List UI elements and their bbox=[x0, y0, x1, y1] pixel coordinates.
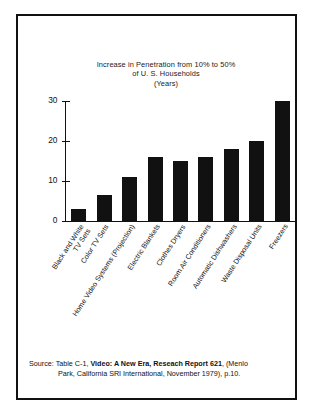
bar[interactable] bbox=[97, 195, 112, 221]
bar-slot bbox=[117, 101, 142, 221]
bar[interactable] bbox=[249, 141, 264, 221]
source-prefix: Source: Table C-1, bbox=[29, 359, 90, 368]
bar-slot bbox=[193, 101, 218, 221]
y-tick-label-30: 30 bbox=[48, 96, 57, 105]
bar-slot bbox=[142, 101, 167, 221]
category-label-line-1: Freezers bbox=[266, 222, 289, 251]
bar-series bbox=[66, 101, 295, 221]
bar[interactable] bbox=[198, 157, 213, 221]
bar-slot bbox=[66, 101, 91, 221]
y-tick-label-10: 10 bbox=[48, 176, 57, 185]
plot-area: 0 10 20 30 bbox=[65, 101, 295, 221]
source-note: Source: Table C-1, Video: A New Era, Res… bbox=[29, 359, 291, 378]
bar-slot bbox=[91, 101, 116, 221]
bar[interactable] bbox=[71, 209, 86, 221]
bar-slot bbox=[244, 101, 269, 221]
y-tick-0: 0 bbox=[62, 221, 70, 222]
bar[interactable] bbox=[148, 157, 163, 221]
bar[interactable] bbox=[275, 101, 290, 221]
y-tick-label-0: 0 bbox=[53, 216, 58, 225]
y-tick-label-20: 20 bbox=[48, 136, 57, 145]
category-label: Freezers bbox=[267, 223, 289, 251]
chart-frame: Increase in Penetration from 10% to 50% … bbox=[16, 14, 297, 400]
bar[interactable] bbox=[224, 149, 239, 221]
category-axis-labels: Black and WhiteTV SetsColor TV SetsHome … bbox=[65, 223, 305, 343]
bar-slot bbox=[270, 101, 295, 221]
bar-slot bbox=[168, 101, 193, 221]
source-line-2: Park, California SRI International, Nove… bbox=[29, 369, 291, 379]
bar-slot bbox=[219, 101, 244, 221]
chart-title: Increase in Penetration from 10% to 50% … bbox=[56, 60, 276, 88]
source-title: Video: A New Era, Reseach Report 621 bbox=[90, 359, 222, 368]
chart-title-line-3: (Years) bbox=[56, 79, 276, 88]
bar[interactable] bbox=[122, 177, 137, 221]
bar[interactable] bbox=[173, 161, 188, 221]
chart-title-line-1: Increase in Penetration from 10% to 50% bbox=[56, 60, 276, 69]
source-suffix: , (Menlo bbox=[222, 359, 248, 368]
chart-title-line-2: of U. S. Households bbox=[56, 69, 276, 78]
